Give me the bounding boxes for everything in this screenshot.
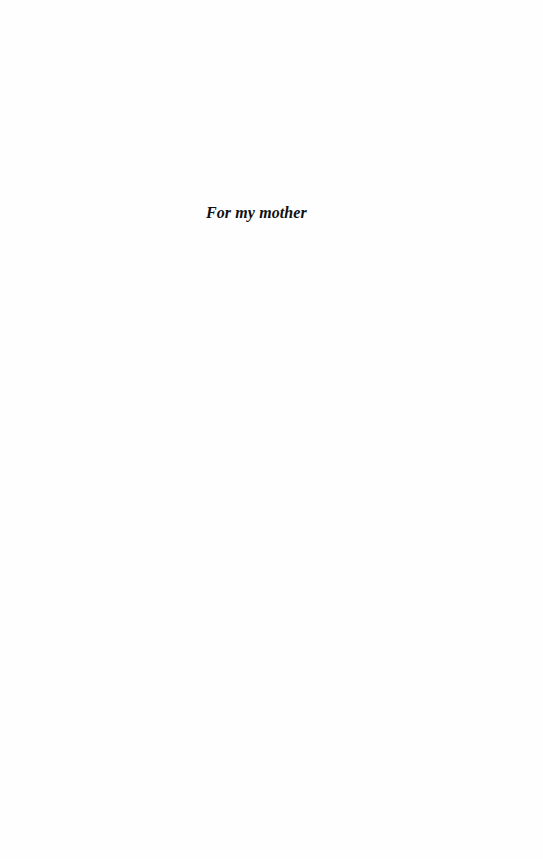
dedication-text: For my mother bbox=[206, 203, 307, 223]
book-page: For my mother bbox=[0, 0, 543, 859]
